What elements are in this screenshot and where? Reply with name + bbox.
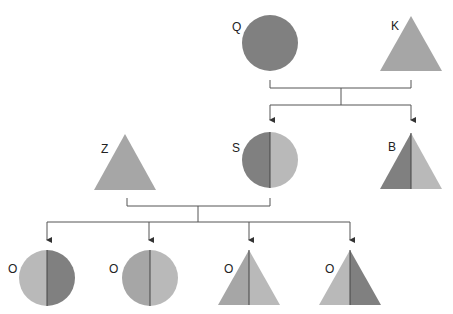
- female-circle-icon-right-half: [150, 250, 178, 306]
- female-circle-icon-left-half: [19, 250, 47, 306]
- male-triangle-icon-left-half: [319, 250, 350, 305]
- label-o2: O: [109, 262, 118, 276]
- individual-labels: QKZSBOOOO: [8, 19, 399, 276]
- family-connectors: [47, 80, 411, 240]
- male-triangle-icon-left-half: [218, 250, 249, 305]
- individual-q: [242, 15, 298, 71]
- male-triangle-icon-right-half: [350, 250, 381, 305]
- label-o3: O: [224, 262, 233, 276]
- male-triangle-icon: [380, 16, 442, 71]
- label-o1: O: [8, 262, 17, 276]
- pedigree-diagram: QKZSBOOOO: [0, 0, 453, 314]
- label-b: B: [388, 140, 396, 154]
- female-circle-icon-left-half: [122, 250, 150, 306]
- family-connector-1: [270, 80, 411, 120]
- individual-o3: [218, 250, 280, 305]
- parent-bracket: [127, 198, 270, 206]
- female-circle-icon-right-half: [270, 132, 298, 188]
- label-o4: O: [325, 262, 334, 276]
- individual-o4: [319, 250, 381, 305]
- female-circle-icon: [242, 15, 298, 71]
- individual-o1: [19, 250, 75, 306]
- individual-o2: [122, 250, 178, 306]
- individual-s: [242, 132, 298, 188]
- family-connector-2: [47, 198, 350, 240]
- parent-bracket: [270, 80, 411, 88]
- label-k: K: [391, 19, 399, 33]
- individual-k: [380, 16, 442, 71]
- female-circle-icon-right-half: [47, 250, 75, 306]
- male-triangle-icon-right-half: [411, 133, 442, 189]
- label-q: Q: [232, 20, 241, 34]
- label-z: Z: [101, 142, 108, 156]
- label-s: S: [232, 141, 240, 155]
- male-triangle-icon-right-half: [249, 250, 280, 305]
- female-circle-icon-left-half: [242, 132, 270, 188]
